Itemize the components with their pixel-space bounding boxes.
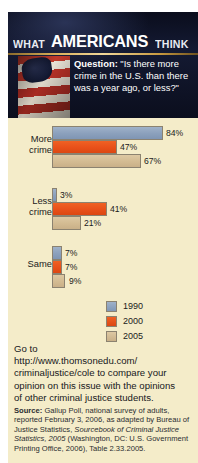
bar-row: 7%	[52, 246, 198, 260]
bar-value-2000-more-crime: 47%	[120, 141, 137, 153]
bar-row: 67%	[52, 154, 198, 168]
goto-line-1: Go to	[14, 343, 196, 355]
question-text: Question: "Is there more crime in the U.…	[74, 58, 194, 95]
legend-item-1990: 1990	[106, 300, 143, 313]
legend-label-2005: 2005	[123, 331, 143, 342]
bar-value-1990-more-crime: 84%	[166, 127, 183, 139]
question-label: Question:	[74, 58, 118, 69]
source-note: Source: Gallup Poll, national survey of …	[14, 406, 198, 453]
banner-word-what: WHAT	[13, 38, 45, 50]
bar-row: 21%	[52, 216, 198, 230]
bar-2005-more-crime	[52, 154, 141, 168]
bars-same: 7% 7% 9%	[52, 246, 198, 288]
bar-value-1990-less-crime: 3%	[60, 189, 72, 201]
group-label-more-crime: More crime	[12, 134, 52, 155]
question-block: Question: "Is there more crime in the U.…	[74, 58, 194, 95]
legend-label-1990: 1990	[123, 301, 143, 312]
goto-line-4: opinion on this issue with the opinions	[14, 380, 196, 392]
chart-legend: 1990 2000 2005	[106, 300, 143, 345]
figure-header: WHAT AMERICANS THINK Question: "Is there…	[8, 12, 198, 118]
what-americans-think-figure: WHAT AMERICANS THINK Question: "Is there…	[0, 0, 198, 463]
bar-value-2005-less-crime: 21%	[84, 217, 101, 229]
banner-word-think: THINK	[155, 38, 189, 50]
american-flag-image	[18, 56, 70, 118]
bar-row: 41%	[52, 202, 198, 216]
goto-line-5: of other criminal justice students.	[14, 392, 196, 404]
bar-row: 47%	[52, 140, 198, 154]
goto-url[interactable]: http://www.thomsonedu.com/	[14, 355, 196, 367]
legend-swatch-2005	[106, 331, 117, 342]
legend-label-2000: 2000	[123, 316, 143, 327]
bar-2000-same	[52, 260, 62, 274]
bar-row: 3%	[52, 188, 198, 202]
flag-shading	[18, 56, 70, 118]
bar-value-2005-same: 9%	[69, 275, 81, 287]
group-label-same: Same	[12, 259, 52, 270]
bar-2005-same	[52, 274, 65, 288]
bar-row: 7%	[52, 260, 198, 274]
bar-value-2000-same: 7%	[65, 261, 77, 273]
goto-line-3: criminaljustice/cole to compare your	[14, 367, 196, 379]
bar-2005-less-crime	[52, 216, 81, 230]
bar-value-2005-more-crime: 67%	[144, 155, 161, 167]
legend-item-2005: 2005	[106, 330, 143, 343]
legend-swatch-1990	[106, 301, 117, 312]
bar-value-2000-less-crime: 41%	[110, 203, 127, 215]
group-label-less-crime: Less crime	[12, 196, 52, 217]
bar-value-1990-same: 7%	[65, 247, 77, 259]
bar-row: 9%	[52, 274, 198, 288]
bars-more-crime: 84% 47% 67%	[52, 126, 198, 168]
legend-item-2000: 2000	[106, 315, 143, 328]
gold-divider	[8, 53, 198, 55]
bar-1990-same	[52, 246, 62, 260]
legend-swatch-2000	[106, 316, 117, 327]
chart-panel: More crime 84% 47% 67%	[8, 118, 198, 463]
source-label: Source:	[14, 406, 42, 415]
goto-block: Go to http://www.thomsonedu.com/ crimina…	[14, 343, 196, 404]
bar-1990-less-crime	[52, 188, 57, 202]
bars-less-crime: 3% 41% 21%	[52, 188, 198, 230]
bar-row: 84%	[52, 126, 198, 140]
bar-2000-more-crime	[52, 140, 117, 154]
bar-1990-more-crime	[52, 126, 163, 140]
bar-2000-less-crime	[52, 202, 107, 216]
banner-title: WHAT AMERICANS THINK	[8, 28, 198, 50]
banner-word-americans: AMERICANS	[51, 33, 148, 50]
